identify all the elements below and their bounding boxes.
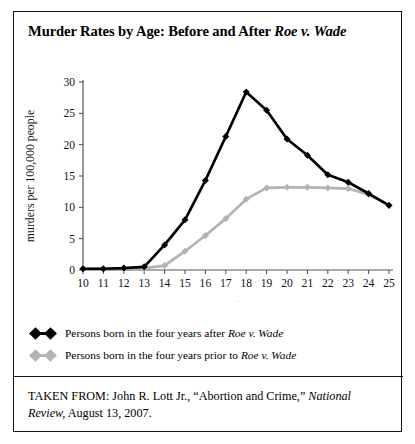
x-axis-tick-label: 11 <box>98 277 109 290</box>
x-axis-tick-label: 15 <box>179 277 191 290</box>
page-title: Murder Rates by Age: Before and After Ro… <box>28 23 388 40</box>
source-divider <box>14 376 403 377</box>
x-axis-tick-label: 14 <box>159 277 171 290</box>
x-axis-tick-label: 21 <box>302 277 314 290</box>
x-axis-tick-label: 20 <box>281 277 293 290</box>
series-marker <box>324 184 331 191</box>
y-axis-tick-label: 10 <box>63 201 75 214</box>
legend-label-prior: Persons born in the four years prior to … <box>65 349 296 361</box>
y-axis-tick-label: 20 <box>63 139 75 152</box>
y-axis-tick-label: 15 <box>63 170 75 183</box>
x-axis-tick-label: 13 <box>138 277 150 290</box>
source-lead: TAKEN FROM: John R. Lott Jr., “Abortion … <box>28 389 308 403</box>
y-axis-tick-label: 25 <box>63 107 75 120</box>
series-marker <box>345 185 352 192</box>
x-axis-title: age <box>228 297 244 302</box>
chart-plot-area: 0510152025301011121314151617181920212223… <box>14 47 403 302</box>
x-axis-tick-label: 16 <box>200 277 212 290</box>
line-chart-svg: 0510152025301011121314151617181920212223… <box>14 47 403 302</box>
x-axis-tick-label: 17 <box>220 277 232 290</box>
chart-legend: Persons born in the four years after Roe… <box>30 322 390 366</box>
legend-swatch-gray-line <box>30 349 56 361</box>
figure-frame: Murder Rates by Age: Before and After Ro… <box>13 11 402 432</box>
source-citation: TAKEN FROM: John R. Lott Jr., “Abortion … <box>28 388 390 422</box>
x-axis-tick-label: 12 <box>118 277 130 290</box>
x-axis-tick-label: 25 <box>383 277 395 290</box>
x-axis-tick-label: 19 <box>261 277 273 290</box>
legend-swatch-black-line <box>30 327 56 339</box>
series-marker <box>80 265 87 272</box>
series-marker <box>100 265 107 272</box>
legend-item-prior: Persons born in the four years prior to … <box>30 344 390 366</box>
y-axis-tick-label: 0 <box>69 264 75 277</box>
x-axis-tick-label: 24 <box>363 277 375 290</box>
y-axis-title: murders per 100,000 people <box>23 110 37 242</box>
x-axis-tick-label: 22 <box>322 277 334 290</box>
series-marker <box>284 184 291 191</box>
legend-item-after: Persons born in the four years after Roe… <box>30 322 390 344</box>
x-axis-tick-label: 18 <box>240 277 252 290</box>
source-tail: August 13, 2007. <box>65 406 151 420</box>
x-axis-tick-label: 10 <box>77 277 89 290</box>
figure-title-italic: Roe v. Wade <box>274 23 346 39</box>
series-marker <box>304 184 311 191</box>
series-line <box>83 92 389 269</box>
y-axis-tick-label: 30 <box>63 76 75 89</box>
x-axis-tick-label: 23 <box>342 277 354 290</box>
y-axis-tick-label: 5 <box>69 233 75 246</box>
figure-title-prefix: Murder Rates by Age: Before and After <box>28 23 274 39</box>
series-line <box>83 187 389 268</box>
legend-label-after: Persons born in the four years after Roe… <box>65 327 283 339</box>
